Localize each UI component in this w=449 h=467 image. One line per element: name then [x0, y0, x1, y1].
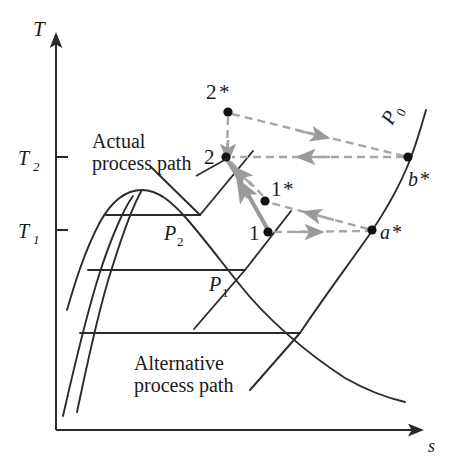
label-P1-base: P [208, 273, 221, 295]
arrow-astar-1star [312, 214, 334, 220]
label-state-1star-sup: * [283, 177, 294, 201]
label-state-1star-base: 1 [271, 177, 282, 201]
label-state-1: 1 [249, 221, 260, 245]
arrow-2star-bstar [296, 130, 320, 136]
y-tick-label-T1: T 1 [18, 220, 40, 247]
label-state-2star-base: 2 [206, 80, 217, 104]
annotation-actual-line2: process path [92, 152, 191, 175]
label-state-astar-sup: * [392, 221, 402, 243]
annotation-actual-process-path: Actual process path [92, 130, 191, 175]
x-axis-label: s [428, 436, 435, 456]
label-state-astar: a * [380, 221, 402, 243]
ts-diagram: T s T 2 T 1 [0, 0, 449, 467]
label-state-bstar: b * [408, 168, 430, 190]
label-P1: P 1 [208, 273, 229, 300]
label-state-2star: 2 * [206, 80, 230, 104]
y-tick-label-T2: T 2 [18, 147, 40, 174]
label-state-bstar-base: b [408, 168, 418, 190]
state-point-bstar[interactable] [403, 152, 412, 161]
y-tick-T2-base: T [18, 147, 31, 169]
state-point-2star[interactable] [223, 107, 232, 116]
annotation-actual-line1: Actual [92, 130, 146, 152]
annotation-alternative-process-path: Alternative process path [134, 352, 233, 397]
y-axis-label: T [33, 17, 46, 41]
annotation-alternative-line1: Alternative [134, 352, 224, 374]
compressed-liquid-line-b [63, 196, 133, 416]
label-state-astar-base: a [380, 221, 390, 243]
annotation-alternative-line2: process path [134, 374, 233, 397]
compressed-liquid-line-a [77, 190, 142, 412]
label-P1-sub: 1 [222, 285, 229, 300]
state-point-labels-group: 2 2 * 1 1 * a * b * [204, 80, 430, 245]
label-P2-sub: 2 [177, 234, 184, 249]
isobar-P0-dead-state-curve [300, 110, 426, 333]
state-points-group [221, 107, 412, 236]
label-state-1star: 1 * [271, 177, 294, 201]
dashed-1-to-astar [274, 231, 368, 232]
y-tick-T1-base: T [18, 220, 31, 242]
label-state-2star-sup: * [219, 80, 230, 104]
state-point-1star[interactable] [260, 196, 269, 205]
label-P2: P 2 [163, 222, 184, 249]
y-tick-T2-sub: 2 [33, 159, 40, 174]
label-state-2: 2 [204, 145, 215, 169]
isobar-lower-diagonal-line [250, 333, 300, 390]
state-point-astar[interactable] [367, 225, 376, 234]
y-tick-T1-sub: 1 [33, 232, 40, 247]
label-P0: P 0 [376, 100, 409, 131]
label-state-bstar-sup: * [420, 168, 430, 190]
saturation-dome-curve [67, 190, 405, 402]
state-point-1[interactable] [263, 227, 272, 236]
label-P2-base: P [163, 222, 176, 244]
